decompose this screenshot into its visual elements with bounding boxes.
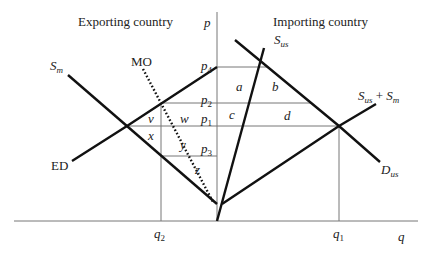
- q1-label: q1: [333, 226, 344, 243]
- sm-label: Sm: [50, 58, 64, 75]
- area-y-label: y: [178, 137, 186, 152]
- sm-curve: [68, 75, 217, 204]
- sus-sm-label: Sus + Sm: [358, 88, 400, 105]
- p1-label: p1: [200, 111, 212, 128]
- importing-country-title: Importing country: [273, 14, 368, 29]
- p-axis-label: p: [203, 15, 211, 30]
- dus-label: Dus: [380, 162, 399, 179]
- p2-label: p2: [200, 92, 212, 109]
- mo-label: MO: [131, 54, 152, 69]
- area-w-label: w: [180, 111, 189, 126]
- q2-label: q2: [154, 226, 165, 243]
- trade-diagram: Exporting country Importing country p q …: [0, 0, 429, 254]
- area-v-label: v: [148, 111, 154, 126]
- q-axis-label: q: [398, 229, 405, 244]
- p4-label: p4: [200, 58, 213, 75]
- area-b-label: b: [272, 79, 279, 94]
- exporting-country-title: Exporting country: [78, 14, 173, 29]
- sus-label: Sus: [274, 32, 289, 49]
- ed-curve: [72, 67, 217, 161]
- area-d-label: d: [284, 108, 291, 123]
- p3-label: p3: [200, 141, 213, 158]
- sus-curve: [217, 48, 264, 221]
- area-x-label: x: [147, 128, 154, 143]
- area-c-label: c: [229, 107, 235, 122]
- area-a-label: a: [236, 79, 243, 94]
- ed-label: ED: [51, 158, 68, 173]
- area-z-label: z: [194, 162, 200, 177]
